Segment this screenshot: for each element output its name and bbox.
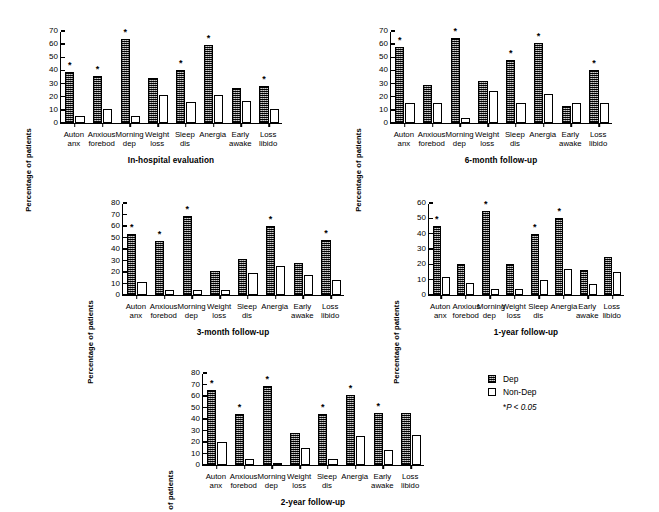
bar-nondep: [516, 103, 525, 123]
y-axis-tick-label: 60: [191, 392, 203, 400]
bar-group: *: [429, 204, 454, 295]
x-axis-category-label: Early awake: [227, 130, 255, 149]
chart-panel-5: Percentage of patients01020304050607080*…: [156, 352, 456, 512]
y-axis-tick-label: 40: [111, 245, 123, 253]
x-axis-category-label: Early awake: [575, 302, 600, 321]
x-axis-category-label: Weight loss: [285, 472, 313, 491]
bar-dep: [232, 88, 241, 123]
bars-container: *: [179, 204, 207, 295]
bar-nondep: [613, 272, 621, 295]
bar-dep: *: [321, 240, 330, 295]
bar-dep: [294, 263, 303, 295]
bar-group: [454, 204, 479, 295]
bar-nondep: [75, 116, 84, 123]
x-axis-tick-mark: [247, 295, 249, 299]
y-axis-tick-label: 20: [379, 92, 391, 100]
bar-nondep: [356, 436, 365, 465]
x-axis-tick-mark: [164, 295, 166, 299]
bar-nondep: [276, 266, 285, 295]
panel-title: In-hospital evaluation: [60, 156, 282, 165]
x-axis-tick-mark: [74, 123, 76, 127]
bar-nondep: [159, 95, 168, 123]
x-axis-category-label: Auton anx: [122, 302, 150, 321]
x-axis-tick-mark: [383, 465, 385, 469]
bars-container: [576, 204, 601, 295]
bar-dep: *: [534, 43, 543, 123]
x-axis-category-label: Morning dep: [116, 130, 144, 149]
bars-container: *: [117, 32, 145, 123]
bar-dep: *: [263, 386, 272, 465]
significance-asterisk: *: [124, 28, 128, 37]
bar-dep: *: [433, 226, 441, 295]
y-axis-tick-label: 10: [191, 449, 203, 457]
bars-container: *: [123, 204, 151, 295]
bars-container: *: [255, 32, 283, 123]
bar-nondep: [564, 269, 572, 295]
x-axis-category-label: Anergia: [529, 130, 557, 149]
y-axis-tick-label: 20: [191, 438, 203, 446]
bar-group: [290, 204, 318, 295]
x-axis-category-label: Auton anx: [390, 130, 418, 149]
x-axis-category-label: Weight loss: [473, 130, 501, 149]
significance-asterisk: *: [509, 49, 513, 58]
x-axis-tick-mark: [460, 123, 462, 127]
bar-dep: *: [266, 226, 275, 295]
legend-label-nondep: Non-Dep: [503, 387, 537, 397]
bars-container: *: [527, 204, 552, 295]
significance-asterisk: *: [537, 32, 541, 41]
y-axis-tick-label: 30: [379, 79, 391, 87]
significance-asterisk: *: [179, 59, 183, 68]
bar-dep: [457, 264, 465, 295]
bar-nondep: [433, 103, 442, 123]
x-axis-category-label: Morning dep: [446, 130, 474, 149]
bar-dep: *: [555, 218, 563, 295]
bar-dep: *: [482, 211, 490, 295]
bars-container: *: [200, 32, 228, 123]
bar-dep: [238, 259, 247, 295]
bar-nondep: [137, 282, 146, 295]
bar-group: *: [200, 32, 228, 123]
bar-group: *: [585, 32, 613, 123]
bar-group: *: [370, 374, 398, 465]
y-axis-label: Percentage of patients: [24, 124, 33, 216]
bars-container: [474, 32, 502, 123]
significance-asterisk: *: [557, 207, 561, 216]
bar-dep: [290, 433, 299, 465]
bars-container: *: [342, 374, 370, 465]
bars-container: *: [89, 32, 117, 123]
x-axis-tick-mark: [587, 295, 589, 299]
y-axis-tick-label: 50: [379, 53, 391, 61]
x-axis-category-label: Weight loss: [205, 302, 233, 321]
significance-asterisk: *: [454, 27, 458, 36]
bar-group: *: [123, 204, 151, 295]
panel-title: 1-year follow-up: [428, 328, 624, 337]
x-axis-category-label: Anxious forebod: [150, 302, 178, 321]
x-axis-tick-mark: [219, 295, 221, 299]
bars-container: *: [478, 204, 503, 295]
bars-container: [206, 204, 234, 295]
chart-legend: Dep Non-Dep *P < 0.05: [488, 372, 537, 412]
y-axis-tick-label: 20: [417, 260, 429, 268]
x-axis-category-label: Early awake: [289, 302, 317, 321]
x-axis-tick-mark: [275, 295, 277, 299]
bar-nondep: [589, 284, 597, 295]
significance-asterisk: *: [207, 34, 211, 43]
bar-nondep: [193, 290, 202, 295]
y-axis-tick-label: 70: [379, 27, 391, 35]
bars-container: [558, 32, 586, 123]
x-axis-tick-mark: [241, 123, 243, 127]
bars-container: *: [151, 204, 179, 295]
bar-dep: *: [451, 38, 460, 123]
x-axis-category-label: Anxious forebod: [230, 472, 258, 491]
bar-nondep: [245, 459, 254, 465]
plot-axes: 010203040506070******: [60, 32, 282, 124]
y-axis-tick-label: 10: [49, 105, 61, 113]
bar-nondep: [384, 450, 393, 465]
x-axis-tick-mark: [102, 123, 104, 127]
bar-group: [286, 374, 314, 465]
bar-group: [228, 32, 256, 123]
bar-group: *: [502, 32, 530, 123]
bar-dep: [423, 85, 432, 123]
x-axis-category-label: Sleep dis: [501, 130, 529, 149]
bar-dep: [210, 271, 219, 295]
